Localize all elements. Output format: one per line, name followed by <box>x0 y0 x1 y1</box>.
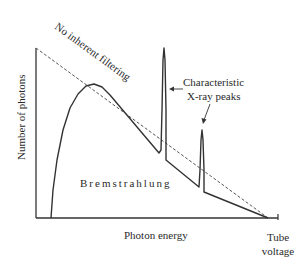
dashed-line-label: No inherent filtering <box>53 20 134 83</box>
x-ray-spectrum-chart: Number of photons Photon energy Tube vol… <box>0 0 307 262</box>
arrowhead-1-icon <box>169 87 174 92</box>
voltage-label: voltage <box>262 245 294 257</box>
no-filtering-line <box>36 48 268 218</box>
arrow-to-peak-2 <box>204 104 210 120</box>
x-axis-label: Photon energy <box>124 229 188 241</box>
peaks-label-1: Characteristic <box>183 76 244 88</box>
arrowhead-2-icon <box>202 118 207 124</box>
tube-label: Tube <box>267 231 289 243</box>
bremsstrahlung-label: Bremstrahlung <box>80 177 171 189</box>
chart-svg: Number of photons Photon energy Tube vol… <box>0 0 307 262</box>
spectrum-curve <box>51 48 268 218</box>
y-axis-label: Number of photons <box>15 74 27 160</box>
peaks-label-2: X-ray peaks <box>187 90 240 102</box>
